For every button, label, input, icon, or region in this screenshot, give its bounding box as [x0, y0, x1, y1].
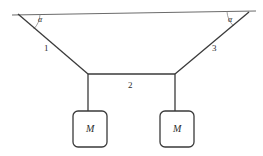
rope-1-label: 1: [44, 44, 49, 53]
ceiling-line: [12, 11, 256, 15]
angle-alpha-right-label: α: [228, 16, 232, 24]
rope-1-line: [18, 14, 88, 74]
rope-3-label: 3: [212, 44, 217, 53]
mass-left-label: M: [86, 124, 94, 134]
mass-right-label: M: [173, 124, 181, 134]
rope-2-label: 2: [128, 81, 133, 90]
physics-diagram-canvas: 1 2 3 α α M M: [0, 0, 263, 156]
angle-alpha-left-label: α: [38, 16, 42, 24]
